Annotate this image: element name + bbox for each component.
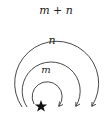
outer-arc-label: m + n — [39, 4, 73, 17]
arc-diagram: m + n n m — [0, 0, 112, 115]
middle-arc-label: n — [48, 34, 55, 47]
star-icon — [35, 100, 47, 112]
inner-arc — [32, 82, 62, 106]
inner-arc-label: m — [41, 64, 50, 75]
middle-arc — [22, 62, 80, 107]
